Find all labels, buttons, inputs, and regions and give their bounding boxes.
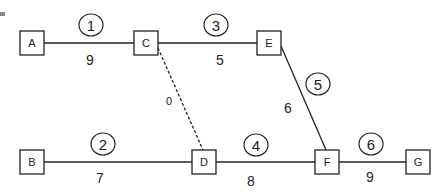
node-c: C (134, 31, 158, 55)
activity-4-marker: 4 (244, 134, 268, 156)
svg-text:1: 1 (87, 17, 95, 34)
svg-text:3: 3 (212, 17, 220, 34)
node-a: A (20, 31, 44, 55)
duration-a-c: 9 (86, 52, 94, 68)
duration-c-d-dummy: 0 (166, 95, 172, 107)
duration-b-d: 7 (96, 170, 104, 186)
network-diagram: 1 3 5 2 4 6 9 5 6 0 7 8 9 A C E B (0, 0, 448, 192)
node-b: B (20, 150, 44, 174)
svg-text:A: A (28, 37, 36, 49)
node-g: G (406, 150, 430, 174)
node-d: D (192, 150, 216, 174)
duration-c-e: 5 (216, 52, 224, 68)
svg-text:F: F (324, 156, 331, 168)
svg-text:5: 5 (314, 76, 322, 93)
edge-e-f (281, 46, 326, 150)
svg-text:G: G (414, 156, 423, 168)
activity-1-marker: 1 (79, 14, 103, 36)
activity-5-marker: 5 (306, 73, 330, 95)
svg-text:4: 4 (252, 137, 260, 154)
activity-3-marker: 3 (204, 14, 228, 36)
duration-e-f: 6 (284, 100, 292, 116)
duration-d-f: 8 (247, 173, 255, 189)
node-e: E (257, 31, 281, 55)
activity-6-marker: 6 (359, 133, 383, 155)
edge-c-d-dummy (158, 48, 203, 150)
activity-2-marker: 2 (91, 133, 115, 155)
svg-text:D: D (200, 156, 208, 168)
svg-text:6: 6 (367, 136, 375, 153)
svg-text:B: B (28, 156, 35, 168)
svg-text:C: C (142, 37, 150, 49)
svg-text:2: 2 (99, 136, 107, 153)
duration-f-g: 9 (366, 169, 374, 185)
svg-text:E: E (265, 37, 272, 49)
node-f: F (315, 150, 339, 174)
